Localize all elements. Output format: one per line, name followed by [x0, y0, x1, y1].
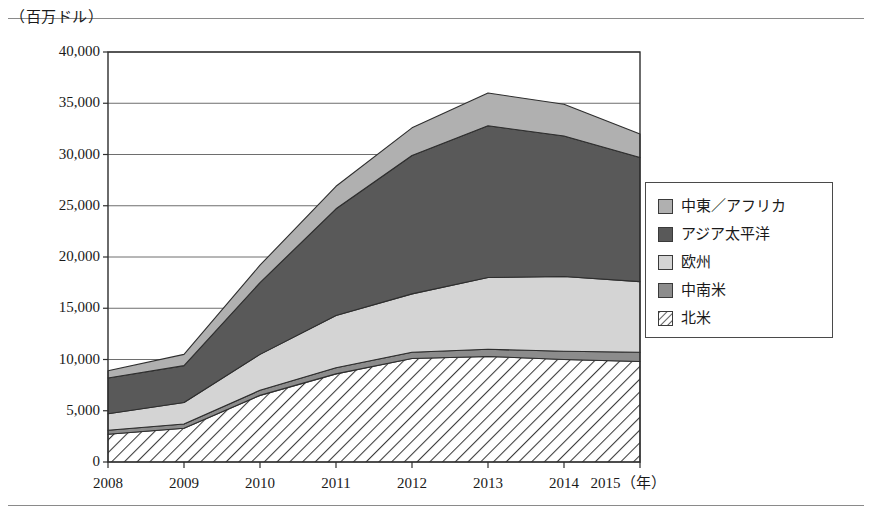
- x-axis-tick-label: 2010: [245, 476, 275, 491]
- x-axis-tick-label: 2011: [321, 476, 350, 491]
- legend-item: 中東／アフリカ: [658, 192, 832, 220]
- x-axis-tick-label: 2014: [549, 476, 579, 491]
- legend-swatch-icon: [658, 255, 673, 270]
- legend-label: 北米: [681, 311, 711, 326]
- legend-swatch-icon: [658, 311, 673, 326]
- legend-item: 北米: [658, 304, 832, 332]
- legend-swatch-icon: [658, 227, 673, 242]
- legend-swatch-icon: [658, 283, 673, 298]
- legend-label: アジア太平洋: [681, 227, 770, 242]
- legend-item: 中南米: [658, 276, 832, 304]
- x-axis-tick-label: 2012: [397, 476, 427, 491]
- x-axis-tick-label: 2008: [93, 476, 123, 491]
- x-axis-tick-label: 2015（年）: [591, 476, 666, 491]
- legend-label: 欧州: [681, 255, 711, 270]
- legend-item: 欧州: [658, 248, 832, 276]
- legend-label: 中南米: [681, 283, 726, 298]
- legend-item: アジア太平洋: [658, 220, 832, 248]
- x-axis-tick-label: 2013: [473, 476, 503, 491]
- chart-figure: （百万ドル） 05,00010,00015,00020,00025,00030,…: [0, 0, 872, 519]
- legend-swatch-icon: [658, 199, 673, 214]
- x-axis-tick-label: 2009: [169, 476, 199, 491]
- chart-legend: 中東／アフリカアジア太平洋欧州中南米北米: [645, 182, 833, 338]
- legend-label: 中東／アフリカ: [681, 199, 786, 214]
